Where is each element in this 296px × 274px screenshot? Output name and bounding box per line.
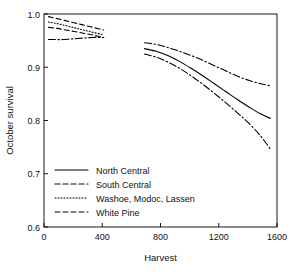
legend-label: White Pine [96,208,140,218]
legend-label: North Central [96,166,150,176]
x-tick-label: 1200 [209,232,229,242]
y-tick-label: 0.7 [27,169,40,179]
x-axis-title: Harvest [144,252,177,263]
x-tick-label: 400 [95,232,110,242]
legend-label: Washoe, Modoc, Lassen [96,194,195,204]
x-tick-label: 1600 [267,232,287,242]
y-axis-title: October survival [4,86,15,155]
survival-harvest-chart: 1.0 0.9 0.8 0.7 0.6 0 400 800 1200 1600 … [0,0,296,274]
y-tick-label: 0.6 [27,223,40,233]
x-tick-label: 800 [153,232,168,242]
legend-label: South Central [96,180,151,190]
y-tick-label: 1.0 [27,10,40,20]
y-tick-label: 0.8 [27,116,40,126]
y-tick-label: 0.9 [27,63,40,73]
x-tick-label: 0 [41,232,46,242]
